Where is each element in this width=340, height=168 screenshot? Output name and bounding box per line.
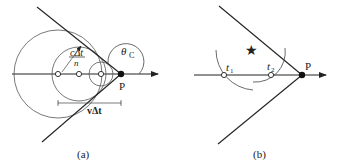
star-icon: ★ (245, 43, 258, 58)
particle-p-a (118, 71, 124, 77)
wavefront-label-den: n (74, 58, 79, 68)
point-p-label-a: P (119, 80, 125, 92)
t2-sub: 2 (271, 66, 275, 74)
cone-upper-a (37, 7, 121, 74)
cherenkov-diagram: cΔt n θ C P vΔt (a) ★ t 1 t 2 P (b) (0, 0, 340, 168)
panel-b (194, 6, 326, 144)
particle-p-b (299, 72, 305, 78)
theta-label: θ (121, 45, 127, 57)
t1-sub: 1 (230, 67, 234, 75)
wavefront-label-num: cΔt (70, 47, 83, 58)
emission-point-1 (55, 71, 60, 76)
theta-sub: C (129, 51, 134, 60)
cone-lower-b (218, 75, 302, 144)
cone-upper-b (219, 6, 302, 75)
emission-point-2 (76, 71, 81, 76)
panel-a (12, 7, 158, 142)
caption-b: (b) (253, 148, 266, 161)
point-p-label-b: P (305, 60, 311, 72)
caption-a: (a) (77, 148, 90, 161)
emission-point-3 (98, 71, 103, 76)
displacement-label: vΔt (87, 105, 102, 116)
emission-point-t1 (221, 72, 226, 77)
